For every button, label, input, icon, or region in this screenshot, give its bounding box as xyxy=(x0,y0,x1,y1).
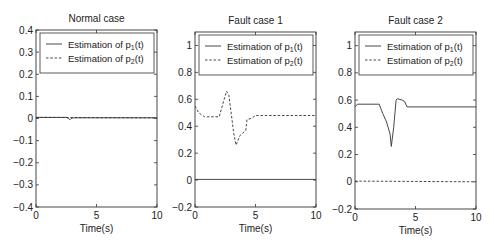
x-tick-label: 10 xyxy=(310,210,322,221)
panel-fault-case-1: Fault case 110.80.60.40.20−0.20510Time(s… xyxy=(172,15,322,234)
chart-title: Fault case 2 xyxy=(388,15,443,26)
y-tick-label: 0.3 xyxy=(19,47,33,58)
series-p2-line xyxy=(195,91,316,145)
y-tick-label: 0.4 xyxy=(178,121,192,132)
x-tick-label: 10 xyxy=(470,212,482,223)
series-p2-line xyxy=(355,181,476,182)
x-axis-label: Time(s) xyxy=(399,225,433,236)
series-p1-line xyxy=(355,99,476,147)
y-tick-label: 1 xyxy=(346,40,352,51)
y-tick-label: 0.8 xyxy=(178,67,192,78)
y-tick-label: 0.1 xyxy=(19,91,33,102)
y-tick-label: 0 xyxy=(346,176,352,187)
y-tick-label: −0.3 xyxy=(13,179,33,190)
y-tick-label: 0.6 xyxy=(338,95,352,106)
y-tick-label: −0.1 xyxy=(13,135,33,146)
x-axis-label: Time(s) xyxy=(239,223,273,234)
y-tick-label: −0.2 xyxy=(332,204,352,215)
y-tick-label: 0 xyxy=(186,175,192,186)
x-tick-label: 10 xyxy=(151,210,163,221)
figure: Normal case0.40.30.20.10−0.1−0.2−0.3−0.4… xyxy=(0,0,494,251)
legend: Estimation of p1(t)Estimation of p2(t) xyxy=(40,33,154,73)
x-tick-label: 0 xyxy=(33,210,39,221)
y-tick-label: −0.4 xyxy=(13,202,33,213)
y-tick-label: 1 xyxy=(186,40,192,51)
y-tick-label: 0.2 xyxy=(19,69,33,80)
chart-title: Normal case xyxy=(68,13,125,24)
y-tick-label: 0.2 xyxy=(178,148,192,159)
y-tick-label: −0.2 xyxy=(172,202,192,213)
y-tick-label: 0.6 xyxy=(178,94,192,105)
y-tick-label: 0.4 xyxy=(19,25,33,36)
legend: Estimation of p1(t)Estimation of p2(t) xyxy=(359,35,473,75)
y-tick-label: 0.8 xyxy=(338,67,352,78)
x-tick-label: 5 xyxy=(253,210,259,221)
x-tick-label: 0 xyxy=(192,210,198,221)
x-axis-label: Time(s) xyxy=(80,223,114,234)
y-tick-label: 0.4 xyxy=(338,122,352,133)
x-tick-label: 5 xyxy=(94,210,100,221)
x-tick-label: 5 xyxy=(413,212,419,223)
panel-normal-case: Normal case0.40.30.20.10−0.1−0.2−0.3−0.4… xyxy=(13,13,163,234)
y-tick-label: −0.2 xyxy=(13,157,33,168)
legend: Estimation of p1(t)Estimation of p2(t) xyxy=(199,35,313,75)
x-tick-label: 0 xyxy=(352,212,358,223)
panel-fault-case-2: Fault case 210.80.60.40.20−0.20510Time(s… xyxy=(332,15,482,236)
chart-title: Fault case 1 xyxy=(228,15,283,26)
y-tick-label: 0 xyxy=(27,113,33,124)
y-tick-label: 0.2 xyxy=(338,149,352,160)
